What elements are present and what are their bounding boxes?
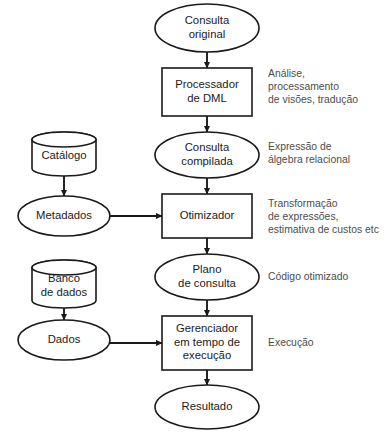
text-line: em tempo de — [174, 336, 240, 348]
annotation-annot-gerenciador: Execução — [268, 337, 314, 348]
text-line: original — [189, 28, 225, 40]
node-resultado: Resultado — [155, 385, 259, 429]
text-line: Consulta — [185, 14, 230, 26]
text-line: de dados — [41, 286, 88, 298]
text-line: Otimizador — [180, 209, 235, 221]
annotation-line: Transformação — [268, 198, 338, 209]
text-line: Metadados — [36, 209, 92, 221]
annotation-line: processamento — [268, 81, 339, 92]
annotation-annot-plano: Código otimizado — [268, 271, 349, 282]
annotation-line: Código otimizado — [268, 271, 349, 282]
query-processing-diagram: ConsultaoriginalProcessadorde DMLConsult… — [0, 0, 392, 434]
node-consulta-compilada: Consultacompilada — [155, 132, 259, 178]
text-line: Gerenciador — [176, 322, 238, 334]
text-line: de DML — [187, 92, 227, 104]
text-line: compilada — [181, 155, 233, 167]
node-plano-de-consulta: Planode consulta — [155, 254, 259, 300]
text-line: Dados — [48, 333, 81, 345]
node-consulta-original: Consultaoriginal — [155, 4, 259, 52]
annotation-line: de expressões, — [268, 211, 338, 222]
annotation-line: Execução — [268, 337, 314, 348]
node-dados: Dados — [18, 320, 110, 360]
node-processador-dml: Processadorde DML — [162, 68, 252, 116]
annotation-line: Expressão de — [268, 141, 332, 152]
text-line: Consulta — [185, 141, 230, 153]
node-gerenciador-execucao: Gerenciadorem tempo deexecução — [162, 316, 252, 370]
annotation-line: de visões, tradução — [268, 94, 358, 105]
annotation-line: estimativa de custos etc — [268, 224, 379, 235]
text-line: Resultado — [182, 400, 233, 412]
text-line: Catálogo — [41, 149, 86, 161]
text-line: de consulta — [178, 277, 236, 289]
node-banco-de-dados: Bancode dados — [32, 260, 96, 308]
node-otimizador: Otimizador — [162, 194, 252, 238]
text-line: Processador — [175, 78, 239, 90]
node-metadados: Metadados — [18, 196, 110, 236]
annotation-line: álgebra relacional — [268, 154, 350, 165]
annotation-line: Análise, — [268, 68, 305, 79]
text-line: Plano — [193, 263, 222, 275]
text-line: execução — [183, 349, 231, 361]
node-catalogo: Catálogo — [32, 132, 96, 176]
cylinder-top — [32, 132, 96, 147]
text-line: Banco — [48, 272, 80, 284]
